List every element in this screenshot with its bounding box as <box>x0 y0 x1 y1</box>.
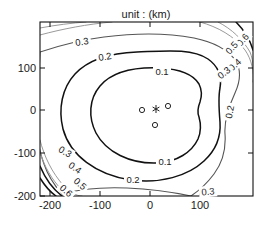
y-axis-tick-labels: 100 0 -100 -200 <box>14 62 36 202</box>
contour-label-7: 0.2 <box>223 104 236 119</box>
chart-title: unit : (km) <box>122 8 171 20</box>
y-tick-label-0: 100 <box>18 62 36 74</box>
contour-label-14: 0.3 <box>201 185 215 197</box>
contour-label-2: 0.1 <box>155 66 168 77</box>
x-tick-label-3: 100 <box>191 199 209 211</box>
y-tick-label-1: 0 <box>30 104 36 116</box>
contour-label-1: 0.2 <box>97 50 112 63</box>
x-tick-label-2: 0 <box>147 199 153 211</box>
x-tick-label-1: -100 <box>89 199 111 211</box>
contour-label-0: 0.3 <box>75 35 90 48</box>
contour-label-12: 0.1 <box>158 156 171 167</box>
figure-container: unit : (km) -200 -100 0 100 100 0 -100 -… <box>0 0 271 227</box>
x-tick-label-0: -200 <box>39 199 61 211</box>
x-axis-tick-labels: -200 -100 0 100 <box>39 199 209 211</box>
y-tick-label-2: -100 <box>14 147 36 159</box>
contour-plot: unit : (km) -200 -100 0 100 100 0 -100 -… <box>0 0 271 227</box>
contour-label-13: 0.2 <box>126 174 139 185</box>
y-tick-label-3: -200 <box>14 190 36 202</box>
